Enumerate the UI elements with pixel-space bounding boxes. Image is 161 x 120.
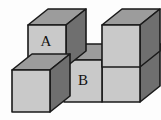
upper-right-cube bbox=[102, 9, 160, 67]
cube-stack-diagram: A B bbox=[0, 0, 161, 120]
upper-right-cube-front-face bbox=[102, 25, 140, 67]
front-left-cube bbox=[12, 54, 70, 112]
cube-label-a: A bbox=[41, 33, 52, 49]
front-left-cube-front-face bbox=[12, 70, 50, 112]
cube-label-b: B bbox=[78, 72, 88, 88]
cube-figure-container: A B bbox=[0, 0, 161, 120]
